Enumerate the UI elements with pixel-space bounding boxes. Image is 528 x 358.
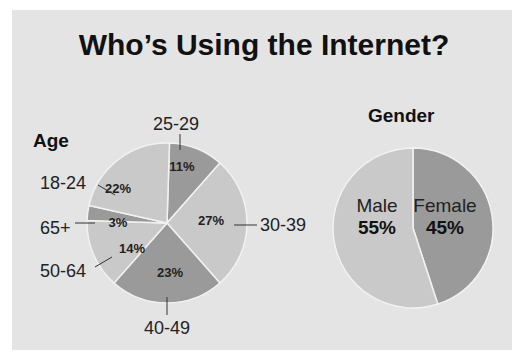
age-slice-percent: 3%	[109, 215, 128, 230]
gender-category-label: Male	[356, 195, 397, 216]
age-category-label: 25-29	[153, 114, 199, 134]
age-category-label: 40-49	[144, 318, 190, 338]
age-slice-percent: 23%	[157, 265, 183, 280]
age-category-label: 30-39	[260, 215, 306, 235]
age-slice-percent: 22%	[105, 181, 131, 196]
age-category-label: 18-24	[40, 173, 86, 193]
pie-charts: 11%27%23%14%3%22%25-2930-3940-4950-6465+…	[0, 0, 528, 358]
age-category-label: 65+	[40, 218, 71, 238]
age-slice-percent: 27%	[198, 213, 224, 228]
gender-percent-label: 55%	[358, 217, 396, 238]
gender-percent-label: 45%	[426, 217, 464, 238]
age-category-label: 50-64	[40, 261, 86, 281]
gender-category-label: Female	[413, 195, 476, 216]
age-slice-percent: 14%	[119, 241, 145, 256]
age-slice-percent: 11%	[169, 159, 195, 174]
